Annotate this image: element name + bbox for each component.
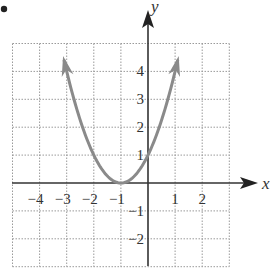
x-tick-label: −1 — [109, 191, 125, 207]
y-tick-label: −2 — [128, 231, 144, 247]
x-tick-labels: −4−3−2−112 — [28, 191, 206, 207]
x-tick-label: −3 — [55, 191, 71, 207]
parabola-graph: x y −4−3−2−112 4321−1−2 — [0, 0, 270, 273]
y-tick-label: 4 — [137, 63, 145, 79]
x-axis: x — [12, 174, 270, 193]
x-tick-label: −2 — [82, 191, 98, 207]
y-tick-label: 2 — [137, 119, 145, 135]
x-axis-label: x — [261, 174, 270, 193]
x-tick-label: 2 — [198, 191, 206, 207]
y-tick-label: 1 — [137, 147, 145, 163]
y-tick-label: 3 — [137, 91, 145, 107]
bullet-marker — [1, 6, 7, 12]
y-tick-label: −1 — [128, 203, 144, 219]
y-axis-label: y — [149, 0, 159, 16]
x-tick-label: −4 — [28, 191, 44, 207]
x-tick-label: 1 — [171, 191, 179, 207]
grid — [13, 44, 230, 267]
